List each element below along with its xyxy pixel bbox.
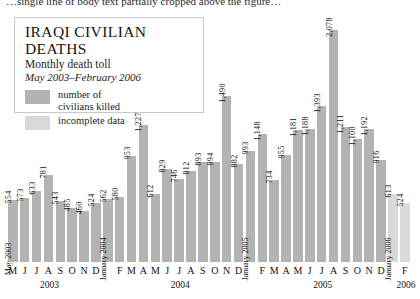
axis-tick-29: O xyxy=(353,264,363,278)
bar-value-label: 460 xyxy=(75,202,84,215)
bar[interactable] xyxy=(198,162,208,262)
bar[interactable] xyxy=(20,198,30,262)
bar-value-label: 781 xyxy=(39,166,48,179)
bar[interactable] xyxy=(400,203,410,262)
axis-tick-16: S xyxy=(198,264,208,278)
legend-item-incomplete: incomplete data xyxy=(25,115,195,130)
bar[interactable] xyxy=(186,171,196,262)
bar[interactable] xyxy=(32,191,42,262)
bar-value-label: 746 xyxy=(170,170,179,183)
bar-value-label: 1,192 xyxy=(360,116,369,135)
bar-slot[interactable]: 1,490 xyxy=(222,6,232,262)
bar-value-label: 543 xyxy=(51,192,60,205)
axis-tick-3: A xyxy=(44,264,54,278)
axis-year-2003: 2003 xyxy=(37,278,63,292)
axis-tick-9: F xyxy=(115,264,125,278)
chart-daterange: May 2003–February 2006 xyxy=(25,71,195,84)
bar-value-label: 829 xyxy=(158,160,167,173)
axis-tick-6: N xyxy=(79,264,89,278)
bar-value-label: 524 xyxy=(87,194,96,207)
bar[interactable] xyxy=(317,106,327,262)
axis-tick-23: A xyxy=(281,264,291,278)
bar-slot[interactable]: 1,188 xyxy=(305,6,315,262)
axis-tick-22: M xyxy=(269,264,279,278)
bar[interactable] xyxy=(305,129,315,262)
axis-tick-25: J xyxy=(305,264,315,278)
bar-value-label: 734 xyxy=(265,171,274,184)
bar-slot[interactable]: 2,078 xyxy=(329,6,339,262)
bar[interactable] xyxy=(67,208,77,262)
bar-value-label: 893 xyxy=(194,153,203,166)
bar-slot[interactable]: 734 xyxy=(269,6,279,262)
bar[interactable] xyxy=(341,127,351,262)
bar[interactable] xyxy=(364,129,374,262)
bar-value-label: 1,100 xyxy=(348,126,357,145)
bar-value-label: 562 xyxy=(99,190,108,203)
bar-value-label: 633 xyxy=(28,182,37,195)
bar-slot[interactable]: 613January 2006 xyxy=(388,6,398,262)
axis-tick-15: A xyxy=(186,264,196,278)
bar-value-label: 485 xyxy=(63,199,72,212)
bar[interactable] xyxy=(258,134,268,262)
axis-tick-11: A xyxy=(139,264,149,278)
axis-tick-27: A xyxy=(329,264,339,278)
bar[interactable] xyxy=(210,162,220,262)
bar[interactable] xyxy=(269,180,279,262)
axis-tick-10: M xyxy=(127,264,137,278)
bar-value-label: 580 xyxy=(111,188,120,201)
bar-slot[interactable]: 1,148 xyxy=(258,6,268,262)
bar-value-label: 1,181 xyxy=(289,117,298,136)
bar-value-label: 524 xyxy=(396,194,405,207)
axis-tick-2: J xyxy=(32,264,42,278)
axis-tick-4: S xyxy=(56,264,66,278)
bar[interactable] xyxy=(329,30,339,262)
bar[interactable] xyxy=(44,175,54,262)
bar-value-label: 882 xyxy=(230,155,239,168)
bar-value-label: 1,188 xyxy=(301,116,310,135)
bar[interactable] xyxy=(162,169,172,262)
chart-subtitle: Monthly death toll xyxy=(25,58,195,71)
axis-tick-19: D xyxy=(234,264,244,278)
axis-tick-14: J xyxy=(174,264,184,278)
bar-slot[interactable]: 1,393 xyxy=(317,6,327,262)
axis-tick-24: M xyxy=(293,264,303,278)
axis-tick-18: N xyxy=(222,264,232,278)
axis-tick-31: D xyxy=(376,264,386,278)
axis-tick-28: S xyxy=(341,264,351,278)
bar-slot[interactable]: 524 xyxy=(400,6,410,262)
bar[interactable] xyxy=(151,194,161,262)
bar-value-label: 812 xyxy=(182,162,191,175)
legend-label-incomplete: incomplete data xyxy=(58,115,125,127)
axis-year-2006: 2006 xyxy=(393,278,419,292)
legend-label-killed: number ofcivilians killed xyxy=(58,89,120,112)
bar-slot[interactable]: 894 xyxy=(210,6,220,262)
bar-value-label: 993 xyxy=(241,142,250,155)
bar[interactable] xyxy=(127,156,137,262)
bar-value-label: 894 xyxy=(206,153,215,166)
x-axis-year-labels: 2003200420052006 xyxy=(8,278,412,292)
bar[interactable] xyxy=(293,130,303,262)
axis-baseline xyxy=(0,262,420,263)
x-axis-ticks: MJJASONDFMAMJJASONDFMAMJJASONDF xyxy=(8,264,412,278)
bar[interactable] xyxy=(281,155,291,262)
axis-tick-1: J xyxy=(20,264,30,278)
bar-value-label: 613 xyxy=(384,185,393,198)
bar-value-label: 573 xyxy=(16,189,25,202)
axis-year-2004: 2004 xyxy=(167,278,193,292)
bar-slot[interactable]: 916 xyxy=(376,6,386,262)
title-legend-box: IRAQI CIVILIAN DEATHS Monthly death toll… xyxy=(14,17,204,113)
bar-value-label: 953 xyxy=(123,147,132,160)
bar-slot[interactable]: 882 xyxy=(234,6,244,262)
page-title: IRAQI CIVILIAN DEATHS xyxy=(25,23,195,57)
legend-swatch-incomplete xyxy=(25,116,50,130)
bar[interactable] xyxy=(79,211,89,262)
bar-slot[interactable]: 1,192 xyxy=(364,6,374,262)
bar-value-label: 955 xyxy=(277,146,286,159)
bar[interactable] xyxy=(222,96,232,262)
axis-tick-17: O xyxy=(210,264,220,278)
axis-tick-13: J xyxy=(162,264,172,278)
bar[interactable] xyxy=(174,179,184,262)
bar[interactable] xyxy=(115,197,125,262)
axis-tick-30: N xyxy=(364,264,374,278)
bar[interactable] xyxy=(353,139,363,262)
